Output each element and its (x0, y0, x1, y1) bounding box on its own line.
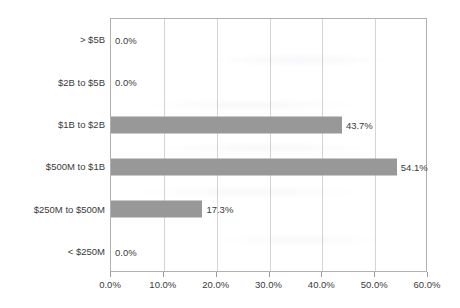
x-axis-tick-mark (427, 272, 428, 277)
x-axis-tick-mark (321, 272, 322, 277)
bar[interactable] (111, 159, 397, 176)
bar[interactable] (111, 201, 202, 218)
x-axis-tick-mark (269, 272, 270, 277)
x-axis-tick-mark (110, 272, 111, 277)
bar-row: 54.1% (111, 146, 426, 188)
x-axis-tick-label: 60.0% (414, 279, 441, 290)
category-label: > $5B (0, 34, 105, 45)
x-axis-tick-label: 20.0% (202, 279, 229, 290)
category-label: $250M to $500M (0, 203, 105, 214)
bar-value-label: 17.3% (202, 204, 233, 215)
x-axis-tick-mark (163, 272, 164, 277)
bar-value-label: 0.0% (111, 77, 137, 88)
category-label: $1B to $2B (0, 118, 105, 129)
x-axis-tick-mark (216, 272, 217, 277)
bar-row: 43.7% (111, 104, 426, 146)
x-axis-tick-label: 50.0% (361, 279, 388, 290)
bar-row: 0.0% (111, 19, 426, 61)
x-axis-tick-label: 30.0% (255, 279, 282, 290)
bar-value-label: 0.0% (111, 246, 137, 257)
category-label: $2B to $5B (0, 76, 105, 87)
bar[interactable] (111, 116, 342, 133)
category-label: $500M to $1B (0, 161, 105, 172)
x-axis-tick-label: 0.0% (99, 279, 121, 290)
bar-chart: 0.0%0.0%43.7%54.1%17.3%0.0% > $5B$2B to … (0, 0, 460, 308)
bar-value-label: 0.0% (111, 35, 137, 46)
category-label: < $250M (0, 245, 105, 256)
plot-area: 0.0%0.0%43.7%54.1%17.3%0.0% (110, 18, 427, 272)
x-axis-tick-label: 10.0% (149, 279, 176, 290)
bar-value-label: 43.7% (342, 119, 373, 130)
x-axis-tick-mark (374, 272, 375, 277)
bar-row: 0.0% (111, 231, 426, 273)
x-axis-tick-label: 40.0% (308, 279, 335, 290)
bar-row: 17.3% (111, 188, 426, 230)
bar-value-label: 54.1% (397, 162, 428, 173)
bar-row: 0.0% (111, 61, 426, 103)
